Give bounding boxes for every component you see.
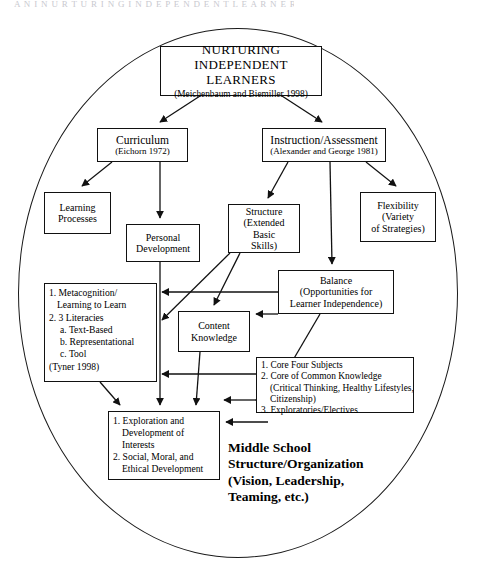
node-metacognition-literacies[interactable]: 1. Metacognition/ Learning to Learn 2. 3… bbox=[44, 283, 157, 382]
middle-school-line1: Middle School bbox=[228, 440, 438, 456]
core-line3: (Critical Thinking, Healthy Lifestyles, bbox=[261, 383, 409, 394]
arrow-instruction-to-structure bbox=[268, 162, 288, 198]
node-curriculum[interactable]: Curriculum (Eichorn 1972) bbox=[97, 128, 188, 162]
meta-line7-citation: (Tyner 1998) bbox=[49, 361, 152, 373]
explore-line4: 2. Social, Moral, and bbox=[113, 451, 215, 463]
root-title-line1: NURTURING bbox=[164, 43, 318, 58]
core-line1: 1. Core Four Subjects bbox=[261, 360, 409, 371]
node-structure[interactable]: Structure (Extended Basic Skills) bbox=[228, 204, 300, 253]
instruction-title: Instruction/Assessment bbox=[266, 134, 382, 147]
flexibility-line3: of Strategies) bbox=[364, 223, 432, 234]
flexibility-line1: Flexibility bbox=[364, 200, 432, 211]
learning-line2: Processes bbox=[48, 213, 107, 224]
node-content-knowledge[interactable]: Content Knowledge bbox=[178, 311, 250, 352]
content-line2: Knowledge bbox=[182, 332, 246, 343]
explore-line3: Interests bbox=[113, 439, 215, 451]
node-flexibility[interactable]: Flexibility (Variety of Strategies) bbox=[360, 192, 436, 242]
middle-school-line4: Teaming, etc.) bbox=[228, 489, 438, 505]
root-title-line2: INDEPENDENT LEARNERS bbox=[164, 58, 318, 88]
node-exploration-development[interactable]: 1. Exploration and Development of Intere… bbox=[108, 411, 220, 480]
personal-line2: Development bbox=[130, 243, 196, 254]
explore-line1: 1. Exploration and bbox=[113, 415, 215, 427]
meta-line3: 2. 3 Literacies bbox=[49, 312, 152, 324]
node-personal-development[interactable]: Personal Development bbox=[126, 224, 200, 262]
arrow-root-to-curriculum bbox=[160, 96, 200, 122]
arrow-root-to-instruction bbox=[282, 96, 322, 122]
personal-line1: Personal bbox=[130, 232, 196, 243]
explore-line5: Ethical Development bbox=[113, 463, 215, 475]
balance-line3: Learner Independence) bbox=[282, 298, 390, 309]
balance-line2: (Opportunities for bbox=[282, 286, 390, 297]
core-line5: 3. Exploratories/Electives bbox=[261, 405, 409, 416]
structure-line3: Skills) bbox=[232, 240, 296, 251]
structure-line2: (Extended Basic bbox=[232, 217, 296, 239]
middle-school-line2: Structure/Organization bbox=[228, 456, 438, 472]
flexibility-line2: (Variety bbox=[364, 211, 432, 222]
arrow-structure-to-metacognition bbox=[162, 253, 230, 320]
meta-line5: b. Representational bbox=[49, 336, 152, 348]
arrow-instruction-to-balance bbox=[330, 162, 332, 264]
middle-school-line3: (Vision, Leadership, bbox=[228, 473, 438, 489]
balance-line1: Balance bbox=[282, 275, 390, 286]
root-citation: (Meichenbaum and Biemiller 1998) bbox=[164, 89, 318, 99]
diagram-page: A N I N U R T U R I N G I N D E P E N D … bbox=[0, 0, 478, 566]
arrow-metacognition-to-exploration bbox=[100, 382, 120, 405]
label-middle-school-structure: Middle School Structure/Organization (Vi… bbox=[228, 440, 438, 506]
structure-line1: Structure bbox=[232, 206, 296, 217]
curriculum-citation: (Eichorn 1972) bbox=[101, 146, 184, 156]
meta-line2: Learning to Learn bbox=[49, 299, 152, 311]
core-line2: 2. Core of Common Knowledge bbox=[261, 371, 409, 382]
learning-line1: Learning bbox=[48, 202, 107, 213]
node-learning-processes[interactable]: Learning Processes bbox=[44, 192, 111, 234]
instruction-citation: (Alexander and George 1981) bbox=[266, 146, 382, 156]
meta-line1: 1. Metacognition/ bbox=[49, 287, 152, 299]
core-line4: Citizenship) bbox=[261, 394, 409, 405]
arrow-instruction-to-flexibility bbox=[366, 162, 396, 186]
node-instruction-assessment[interactable]: Instruction/Assessment (Alexander and Ge… bbox=[262, 128, 386, 162]
node-core-four-subjects[interactable]: 1. Core Four Subjects 2. Core of Common … bbox=[256, 357, 414, 413]
arrow-structure-to-content bbox=[214, 253, 240, 305]
content-line1: Content bbox=[182, 320, 246, 331]
arrow-content-to-exploration bbox=[196, 352, 200, 405]
node-nurturing-independent-learners[interactable]: NURTURING INDEPENDENT LEARNERS (Meichenb… bbox=[160, 46, 322, 96]
explore-line2: Development of bbox=[113, 427, 215, 439]
node-balance[interactable]: Balance (Opportunities for Learner Indep… bbox=[278, 270, 394, 314]
meta-line6: c. Tool bbox=[49, 348, 152, 360]
meta-line4: a. Text-Based bbox=[49, 324, 152, 336]
curriculum-title: Curriculum bbox=[101, 134, 184, 147]
arrow-curriculum-to-learning bbox=[82, 162, 112, 186]
